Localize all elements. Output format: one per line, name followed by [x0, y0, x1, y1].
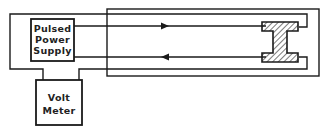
power-supply-label-line3: Supply: [31, 45, 74, 56]
arrow-right-icon: [161, 23, 169, 30]
arrow-left-icon: [161, 54, 169, 61]
power-supply-label: Pulsed Power Supply: [31, 23, 74, 56]
volt-meter-label-line2: Meter: [36, 104, 82, 117]
volt-meter-label: Volt Meter: [36, 91, 82, 117]
power-supply-label-line2: Power: [31, 34, 74, 45]
i-beam-specimen: [262, 22, 298, 62]
power-supply-label-line1: Pulsed: [31, 23, 74, 34]
volt-meter-label-line1: Volt: [36, 91, 82, 104]
